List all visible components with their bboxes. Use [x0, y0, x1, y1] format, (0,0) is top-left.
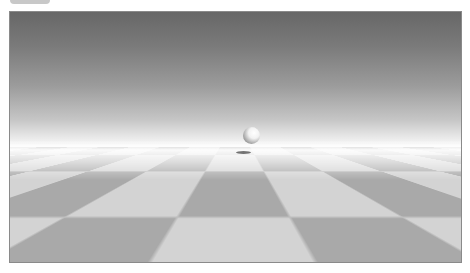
top-toolbar: · · · · · · · [0, 0, 470, 10]
sky-gradient [10, 12, 461, 147]
toolbar-button[interactable] [10, 0, 50, 4]
sphere-shadow [236, 151, 251, 154]
3d-viewport[interactable] [9, 11, 462, 263]
sphere[interactable] [243, 127, 260, 144]
horizon-haze [10, 140, 461, 180]
toolbar-label: · · · · · · · [62, 0, 154, 4]
